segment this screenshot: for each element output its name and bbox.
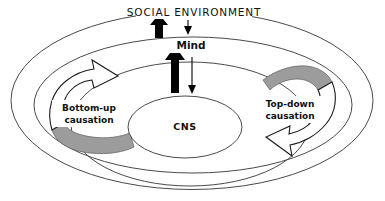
bottom-up-label-line1: Bottom-up	[62, 103, 116, 113]
cns-label: CNS	[173, 121, 196, 132]
social-to-mind-arrow-head	[184, 26, 192, 35]
top-down-label-line2: causation	[265, 111, 314, 121]
top-down-label-line1: Top-down	[266, 99, 315, 109]
mind-to-cns-arrow-head	[188, 85, 196, 94]
bottom-up-label-line2: causation	[64, 115, 113, 125]
social-environment-label: SOCIAL ENVIRONMENT	[127, 6, 261, 18]
cns-to-mind-arrow	[165, 46, 185, 93]
diagram-canvas: Bottom-up causation Top-down causation C…	[0, 0, 385, 201]
causation-diagram: Bottom-up causation Top-down causation C…	[0, 0, 385, 201]
top-down-arrow-tail	[263, 66, 332, 90]
bottom-up-arrow-tail	[52, 123, 134, 154]
mind-label: Mind	[176, 39, 205, 51]
